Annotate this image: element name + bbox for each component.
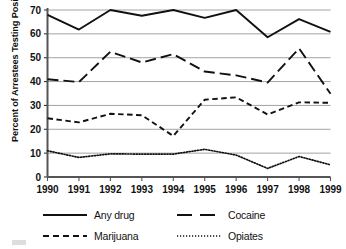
y-axis-tick-label: 0 xyxy=(35,172,41,183)
x-axis-tick-label: 1999 xyxy=(319,184,342,195)
x-axis-tick-label: 1994 xyxy=(162,184,185,195)
x-axis-tick-label: 1997 xyxy=(256,184,279,195)
legend-swatch-long-dash-icon xyxy=(176,210,222,220)
x-axis-tick-label: 1996 xyxy=(225,184,248,195)
scan-artifact xyxy=(12,240,26,245)
y-axis-tick-label: 30 xyxy=(30,100,42,111)
series-line-marijuana xyxy=(48,97,331,136)
y-axis-tick-label: 50 xyxy=(30,52,42,63)
legend-label-opiates: Opiates xyxy=(228,230,263,242)
series-line-any-drug xyxy=(48,10,331,37)
y-axis-tick-label: 70 xyxy=(30,5,42,16)
legend-entry-opiates: Opiates xyxy=(176,227,304,244)
x-axis-tick-label: 1995 xyxy=(194,184,217,195)
legend-grid: Any drug Cocaine Marijuana xyxy=(0,203,346,244)
y-axis-tick-label: 10 xyxy=(30,148,42,159)
x-axis-tick-label: 1992 xyxy=(99,184,122,195)
series-line-cocaine xyxy=(48,48,331,93)
legend-label-marijuana: Marijuana xyxy=(94,230,138,242)
x-axis-tick-label: 1998 xyxy=(288,184,311,195)
x-axis-tick-label: 1993 xyxy=(131,184,154,195)
legend-label-cocaine: Cocaine xyxy=(228,209,265,221)
x-axis-tick-label: 1990 xyxy=(36,184,59,195)
legend-swatch-short-dash-icon xyxy=(42,231,88,241)
legend-entry-any-drug: Any drug xyxy=(42,206,170,223)
y-axis-tick-label: 60 xyxy=(30,28,42,39)
legend-entry-cocaine: Cocaine xyxy=(176,206,304,223)
series-line-opiates xyxy=(48,149,331,168)
figure-container: Percent of Arrestees Testing Positive 01… xyxy=(0,0,346,249)
legend-swatch-solid-icon xyxy=(42,210,88,220)
y-axis-tick-label: 40 xyxy=(30,76,42,87)
x-axis-tick-label: 1991 xyxy=(68,184,91,195)
chart-legend: Any drug Cocaine Marijuana xyxy=(0,203,346,247)
legend-entry-marijuana: Marijuana xyxy=(42,227,170,244)
legend-swatch-dotted-icon xyxy=(176,231,222,241)
line-chart-plot: 0102030405060701990199119921993199419951… xyxy=(0,0,346,205)
legend-label-any-drug: Any drug xyxy=(94,209,134,221)
y-axis-tick-label: 20 xyxy=(30,124,42,135)
